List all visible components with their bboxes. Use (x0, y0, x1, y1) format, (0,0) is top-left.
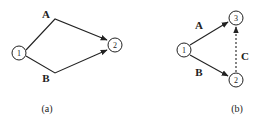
edge-label-b-C: C (241, 50, 249, 62)
edge-a-B (26, 50, 107, 73)
svg-text:2: 2 (113, 41, 117, 50)
caption-b: (b) (231, 103, 243, 115)
node-b-2: 2 (229, 73, 243, 87)
diagram-a: A B 1 2 (a) (12, 8, 122, 115)
diagram-b: A B C 1 3 2 (b) (177, 11, 249, 115)
svg-text:1: 1 (182, 46, 186, 55)
edge-label-a-B: B (42, 72, 50, 84)
svg-text:3: 3 (234, 14, 238, 23)
edge-a-A (26, 19, 107, 50)
node-a-1: 1 (12, 46, 26, 60)
svg-text:2: 2 (234, 76, 238, 85)
node-b-1: 1 (177, 43, 191, 57)
edge-label-b-A: A (195, 19, 203, 31)
diagram-canvas: A B 1 2 (a) A B C 1 3 2 (b) (0, 0, 259, 121)
node-a-2: 2 (108, 38, 122, 52)
node-b-3: 3 (229, 11, 243, 25)
edge-label-a-A: A (42, 8, 50, 20)
caption-a: (a) (41, 103, 52, 115)
svg-text:1: 1 (17, 49, 21, 58)
edge-label-b-B: B (195, 66, 203, 78)
